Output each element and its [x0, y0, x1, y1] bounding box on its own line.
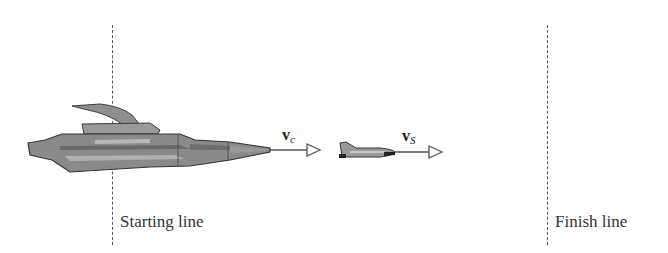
- velocity-label-shuttle: vS: [402, 127, 416, 146]
- finish-line-label: Finish line: [555, 212, 627, 232]
- velocity-symbol: v: [402, 127, 410, 144]
- velocity-arrow-shuttle: [395, 146, 442, 158]
- starting-line-label: Starting line: [120, 212, 204, 232]
- velocity-arrow-cruiser: [270, 144, 320, 156]
- velocity-symbol: v: [282, 126, 290, 143]
- shuttle-icon: [339, 142, 395, 158]
- diagram-canvas: vc vS Starting line Finish line: [0, 0, 668, 253]
- velocity-subscript: S: [410, 134, 416, 146]
- cruiser-icon: [28, 104, 270, 172]
- velocity-label-cruiser: vc: [282, 126, 295, 145]
- velocity-subscript: c: [290, 133, 295, 145]
